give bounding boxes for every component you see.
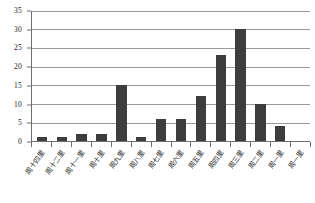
x-axis-tick-label: 周七里	[148, 149, 166, 171]
bar-slot	[131, 11, 151, 141]
bar	[196, 96, 206, 141]
x-label-slot: 周二里	[250, 147, 270, 203]
x-axis-tick-label: 周十四里	[25, 149, 47, 176]
bar	[156, 119, 166, 141]
bar	[116, 85, 126, 141]
bar	[37, 137, 47, 141]
bar-slot	[250, 11, 270, 141]
x-label-slot: 周十一里	[71, 147, 91, 203]
bar-slot	[111, 11, 131, 141]
bar-slot	[52, 11, 72, 141]
bar-series	[32, 11, 310, 141]
y-axis-tick-label: 10	[14, 101, 22, 109]
x-axis-tick-label: 周五里	[188, 149, 206, 171]
bar-slot	[290, 11, 310, 141]
bar-slot	[151, 11, 171, 141]
bar	[57, 137, 67, 141]
bar-slot	[231, 11, 251, 141]
bar	[216, 55, 226, 141]
bar	[96, 134, 106, 141]
x-label-slot: 周十里	[91, 147, 111, 203]
bar-slot	[211, 11, 231, 141]
x-label-slot: 周四里	[210, 147, 230, 203]
x-axis-tick-label: 周三里	[228, 149, 246, 171]
x-axis-tick-label: 周六里	[168, 149, 186, 171]
y-axis-tick-label: 35	[14, 7, 22, 15]
x-axis-tick-label: 周十里	[88, 149, 106, 171]
x-label-slot: 周七里	[151, 147, 171, 203]
y-axis-tick-label: 20	[14, 63, 22, 71]
x-axis-tick-label: 周二里	[248, 149, 266, 171]
x-axis-tick	[310, 142, 311, 147]
y-axis-tick-label: 30	[14, 26, 22, 34]
x-axis-tick-label: 周九里	[108, 149, 126, 171]
x-axis-tick-label: 周一里	[288, 149, 306, 171]
bar-slot	[72, 11, 92, 141]
plot-area	[31, 11, 310, 142]
y-axis-tick-label: 15	[14, 82, 22, 90]
y-axis-tick-label: 0	[18, 138, 22, 146]
bar	[255, 104, 265, 141]
bar	[275, 126, 285, 141]
bar-slot	[92, 11, 112, 141]
x-label-slot: 周五里	[190, 147, 210, 203]
x-axis-labels: 周十四里周十二里周十一里周十里周九里周八里周七里周六里周五里周四里周三里周二里周…	[31, 147, 310, 203]
bar	[176, 119, 186, 141]
x-axis-tick-label: 周一里	[268, 149, 286, 171]
x-label-slot: 周六里	[170, 147, 190, 203]
bar	[136, 137, 146, 141]
bar-slot	[32, 11, 52, 141]
y-axis-tick-label: 5	[18, 120, 22, 128]
bar-slot	[270, 11, 290, 141]
y-axis: 05101520253035	[0, 11, 27, 142]
x-label-slot: 周八里	[131, 147, 151, 203]
bar-chart: 05101520253035 周十四里周十二里周十一里周十里周九里周八里周七里周…	[0, 0, 315, 203]
bar-slot	[171, 11, 191, 141]
bar-slot	[191, 11, 211, 141]
x-axis-tick-label: 周四里	[208, 149, 226, 171]
x-axis-tick-label: 周八里	[128, 149, 146, 171]
y-axis-tick-label: 25	[14, 45, 22, 53]
x-label-slot: 周三里	[230, 147, 250, 203]
x-label-slot: 周一里	[290, 147, 310, 203]
bar	[235, 29, 245, 141]
x-label-slot: 周一里	[270, 147, 290, 203]
bar	[76, 134, 86, 141]
x-label-slot: 周九里	[111, 147, 131, 203]
